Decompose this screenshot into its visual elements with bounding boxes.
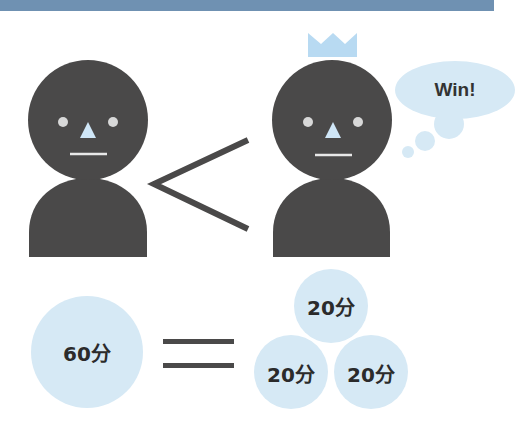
left-figure-head	[28, 60, 148, 180]
right-eye-icon	[108, 117, 118, 127]
equals-bar-bottom	[163, 363, 234, 368]
sixty-minute-label: 60分	[63, 338, 111, 367]
equals-bar-top	[163, 339, 234, 344]
less-than-symbol	[154, 140, 248, 229]
speech-bubble-text: Win!	[435, 79, 476, 101]
thought-bubble	[395, 61, 515, 158]
twenty-minute-label-top: 20分	[307, 292, 355, 321]
right-figure-head	[272, 60, 392, 180]
left-eye-icon	[58, 117, 68, 127]
left-figure	[28, 60, 148, 257]
right-eye-icon	[353, 117, 363, 127]
left-figure-body	[29, 178, 147, 257]
left-eye-icon	[303, 117, 313, 127]
twenty-minute-label-left: 20分	[267, 359, 315, 388]
twenty-minute-label-right: 20分	[347, 359, 395, 388]
right-figure	[272, 60, 392, 257]
crown-icon	[308, 33, 357, 57]
right-figure-body	[273, 178, 390, 257]
